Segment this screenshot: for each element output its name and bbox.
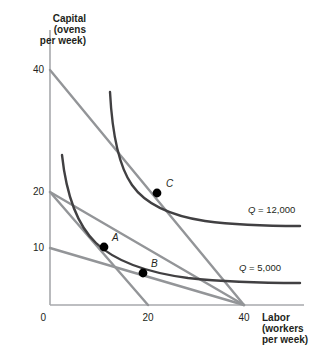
plot-canvas: [0, 0, 316, 364]
point-label-C: C: [166, 178, 173, 189]
isoquant-label-q5000: Q = 5,000: [239, 262, 281, 273]
y-axis-title-line-3: per week): [8, 35, 86, 46]
x-axis-title: Labor (workers per week): [262, 312, 308, 345]
x-axis-title-line-3: per week): [262, 334, 308, 345]
isocost-flattest-line: [50, 248, 244, 305]
point-marker-C: [153, 189, 162, 198]
isocost-low-shallow-line: [50, 192, 244, 305]
isocost-low-steep-line: [50, 192, 148, 305]
point-marker-B: [139, 269, 148, 278]
y-axis-title-line-1: Capital: [8, 13, 86, 24]
x-axis-title-line-2: (workers: [262, 323, 308, 334]
q-value-5000: = 5,000: [246, 262, 281, 273]
point-label-A: A: [112, 232, 119, 243]
y-tick-20: 20: [16, 186, 44, 197]
x-origin-label: 0: [32, 312, 46, 323]
y-axis-title: Capital (ovens per week): [8, 13, 86, 46]
x-tick-20: 20: [134, 312, 162, 323]
y-tick-40: 40: [16, 64, 44, 75]
isoquant-label-q12000: Q = 12,000: [248, 204, 295, 215]
x-axis-title-line-1: Labor: [262, 312, 308, 323]
isoquant-isocost-figure: Capital (ovens per week) 40 20 10 0 20 4…: [0, 0, 316, 364]
y-tick-10: 10: [16, 242, 44, 253]
x-tick-40: 40: [230, 312, 258, 323]
y-axis-title-line-2: (ovens: [8, 24, 86, 35]
point-marker-A: [100, 243, 109, 252]
point-label-B: B: [151, 258, 158, 269]
q-value-12000: = 12,000: [255, 204, 295, 215]
